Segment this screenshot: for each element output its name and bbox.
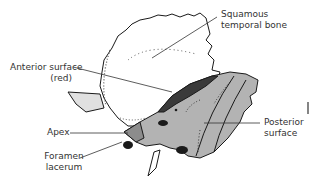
styloid-process-shape [148,150,160,176]
label-line: surface [264,128,304,139]
zygomatic-process-shape [68,92,104,112]
label-line: (red) [10,73,72,84]
label-line: Foramen [44,151,84,162]
label-line: Anterior surface [10,62,72,73]
label-line: lacerum [44,162,84,173]
label-line: Posterior [264,117,304,128]
label-anterior-surface: Anterior surface (red) [10,62,72,84]
label-line: Squamous [221,9,287,20]
label-foramen-lacerum: Foramen lacerum [44,151,84,173]
label-line: temporal bone [221,20,287,31]
label-apex: Apex [47,127,70,138]
label-squamous-temporal-bone: Squamous temporal bone [221,9,287,31]
foramen-lacerum-shape [123,141,133,149]
label-posterior-surface: Posterior surface [264,117,304,139]
